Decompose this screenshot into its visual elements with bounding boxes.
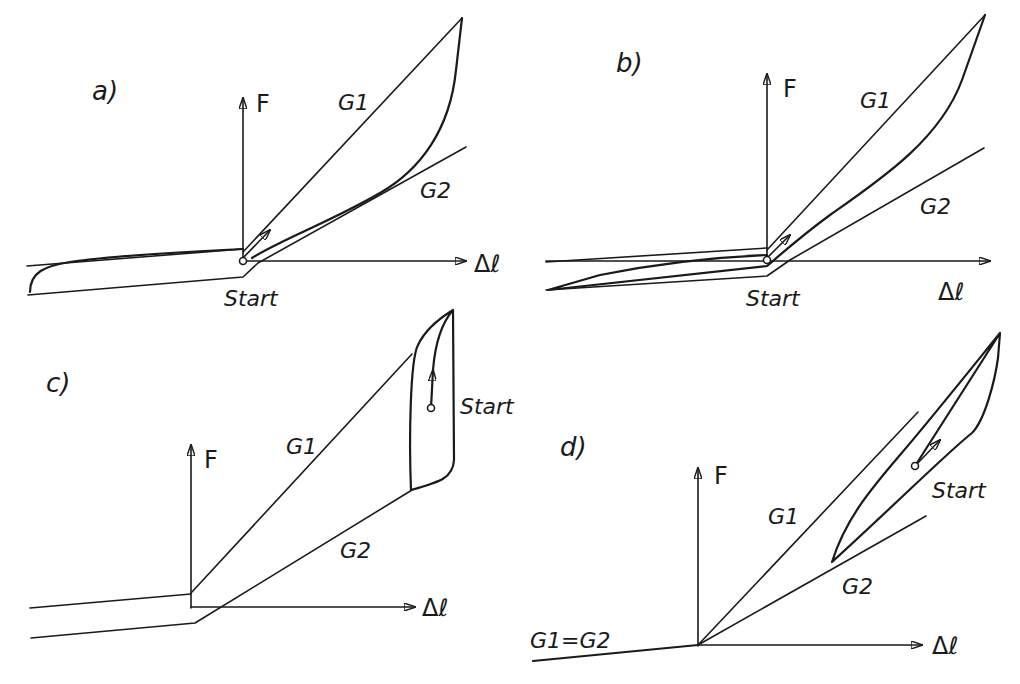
g2-line-b xyxy=(546,148,984,290)
g2-label-d: G2 xyxy=(842,574,873,599)
panel-c: c) F Δℓ G1 G2 Start xyxy=(30,310,515,638)
panel-d: d) F Δℓ G1 G2 G1=G2 Start xyxy=(530,333,1000,661)
g1-eq-g2-label-d: G1=G2 xyxy=(530,628,611,653)
g2-label-a: G2 xyxy=(420,178,451,203)
f-axis-label-b: F xyxy=(783,75,797,103)
start-label-b: Start xyxy=(746,286,801,311)
panel-b-label: b) xyxy=(616,48,643,78)
dl-axis-label-d: Δℓ xyxy=(932,632,958,660)
f-axis-label-d: F xyxy=(714,462,728,490)
dl-axis-label-a: Δℓ xyxy=(474,250,500,278)
g1-line-d xyxy=(698,412,918,645)
start-label-a: Start xyxy=(224,286,279,311)
start-point-b xyxy=(764,257,771,264)
panel-a-label: a) xyxy=(92,76,118,106)
g1-left-branch-b xyxy=(546,248,767,262)
panel-a: a) F Δℓ G1 G2 Start xyxy=(27,18,500,311)
f-axis-label-a: F xyxy=(256,90,270,118)
g2-line-c xyxy=(31,490,412,638)
hysteresis-loop-d xyxy=(832,333,1000,562)
g1-label-b: G1 xyxy=(860,88,891,113)
start-label-c: Start xyxy=(460,394,515,419)
start-point-a xyxy=(240,258,247,265)
start-point-d xyxy=(912,463,919,470)
g2-label-b: G2 xyxy=(920,194,951,219)
dl-axis-label-c: Δℓ xyxy=(422,594,448,622)
g2-line-d xyxy=(698,516,926,645)
g1-line-a xyxy=(243,18,462,252)
g1-label-c: G1 xyxy=(286,434,317,459)
panel-b: b) F Δℓ G1 G2 Start xyxy=(546,15,990,311)
start-arrow-d xyxy=(915,440,940,466)
loading-arrow-a xyxy=(243,230,270,258)
g1-line-b xyxy=(767,15,985,250)
panel-d-label: d) xyxy=(560,432,587,462)
g1-left-branch-c xyxy=(30,594,191,608)
start-point-c xyxy=(428,405,435,412)
unloading-curve-a xyxy=(252,18,462,258)
start-arrow-c xyxy=(431,370,433,408)
g1-label-a: G1 xyxy=(338,90,369,115)
dl-axis-label-b: Δℓ xyxy=(938,278,964,306)
panel-c-label: c) xyxy=(46,368,70,398)
hysteresis-diagram: a) F Δℓ G1 G2 Start b) F Δℓ G1 G2 xyxy=(0,0,1020,684)
f-axis-label-c: F xyxy=(204,446,218,474)
g1-label-d: G1 xyxy=(768,504,799,529)
g2-label-c: G2 xyxy=(340,538,371,563)
g2-line-a xyxy=(28,147,466,295)
start-label-d: Start xyxy=(932,478,987,503)
